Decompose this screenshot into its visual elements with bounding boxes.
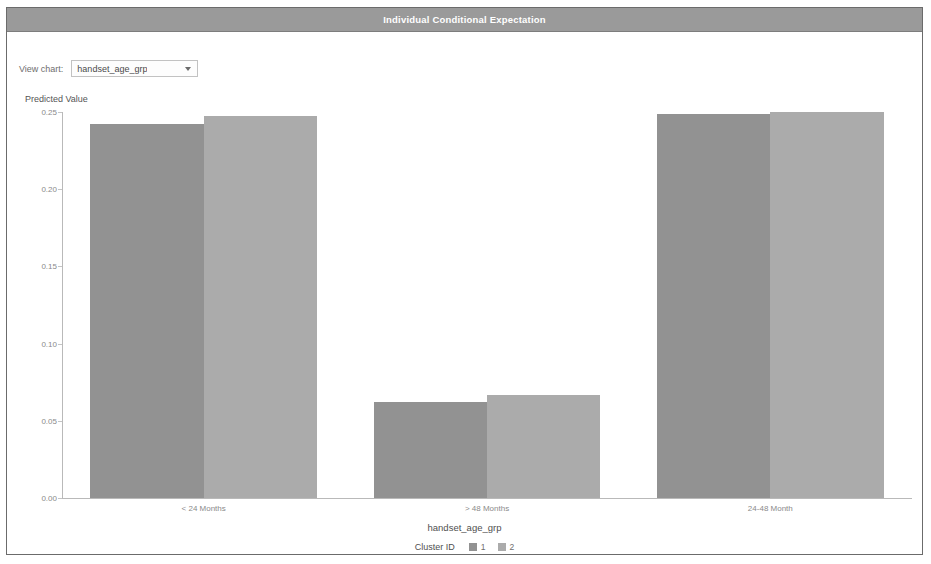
x-axis-line (62, 498, 912, 499)
legend-swatch-icon (498, 543, 506, 551)
legend-swatch-icon (469, 543, 477, 551)
y-tick-mark (58, 189, 62, 190)
legend-label: 2 (510, 542, 515, 552)
y-tick-label: 0.05 (41, 416, 57, 425)
x-tick-label: > 48 Months (465, 504, 509, 513)
x-axis-title: handset_age_grp (7, 522, 922, 533)
chart-area: Predicted Value 0.000.050.100.150.200.25… (7, 8, 922, 554)
plot-bars (62, 112, 912, 498)
y-tick-label: 0.25 (41, 108, 57, 117)
y-tick-mark (58, 266, 62, 267)
chart-window: Individual Conditional Expectation View … (6, 7, 923, 555)
legend-item-1[interactable]: 1 (469, 542, 486, 552)
legend-items: 12 (469, 542, 514, 552)
y-tick-label: 0.20 (41, 185, 57, 194)
legend-title: Cluster ID (415, 542, 455, 552)
bar-3-cluster-1[interactable] (657, 114, 770, 498)
y-tick-label: 0.00 (41, 494, 57, 503)
bar-1-cluster-2[interactable] (204, 116, 317, 498)
legend-item-2[interactable]: 2 (498, 542, 515, 552)
bar-2-cluster-2[interactable] (487, 395, 600, 498)
legend-label: 1 (481, 542, 486, 552)
bar-3-cluster-2[interactable] (770, 112, 883, 498)
bar-1-cluster-1[interactable] (90, 124, 203, 498)
y-axis-ticks: 0.000.050.100.150.200.25 (21, 112, 57, 498)
y-tick-label: 0.10 (41, 339, 57, 348)
y-tick-label: 0.15 (41, 262, 57, 271)
bar-2-cluster-1[interactable] (374, 402, 487, 499)
y-tick-mark (58, 498, 62, 499)
x-tick-label: < 24 Months (182, 504, 226, 513)
y-axis-title: Predicted Value (25, 94, 88, 104)
chart-legend: Cluster ID 12 (7, 542, 922, 552)
x-tick-label: 24-48 Month (748, 504, 793, 513)
y-tick-mark (58, 421, 62, 422)
y-tick-mark (58, 112, 62, 113)
y-tick-mark (58, 344, 62, 345)
